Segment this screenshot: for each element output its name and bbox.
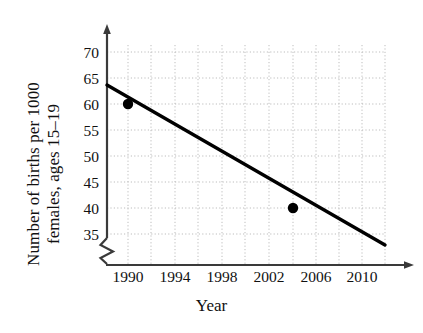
y-tick-label: 35 <box>84 226 100 243</box>
y-axis-title-line-1: Number of births per 1000 <box>24 82 44 266</box>
y-tick-label: 60 <box>84 96 100 113</box>
y-axis-title: Number of births per 1000 females, ages … <box>15 44 73 304</box>
x-axis-arrow-icon <box>404 261 414 269</box>
x-tick-label: 1994 <box>160 268 191 285</box>
x-tick-labels: 1990 1994 1998 2002 2006 2010 <box>113 268 378 285</box>
y-tick-label: 70 <box>84 44 100 61</box>
y-tick-label: 50 <box>84 148 100 165</box>
y-tick-label: 65 <box>84 70 100 87</box>
y-tick-label: 40 <box>84 200 100 217</box>
y-tick-label: 45 <box>84 174 100 191</box>
x-tick-label: 2010 <box>347 268 378 285</box>
x-tick-label: 1990 <box>113 268 144 285</box>
data-point-marker <box>288 203 298 213</box>
chart-figure: 70 65 60 55 50 45 40 35 1990 1994 1998 2… <box>0 0 423 333</box>
data-point-marker <box>123 99 133 109</box>
y-tick-label: 55 <box>84 122 100 139</box>
x-tick-label: 2006 <box>301 268 332 285</box>
y-axis-title-line-2: females, ages 15–19 <box>44 104 64 244</box>
y-axis-arrow-icon <box>103 24 111 34</box>
x-tick-label: 1998 <box>207 268 238 285</box>
x-axis-title: Year <box>0 296 423 316</box>
x-tick-label: 2002 <box>254 268 285 285</box>
y-tick-labels: 70 65 60 55 50 45 40 35 <box>84 44 100 243</box>
